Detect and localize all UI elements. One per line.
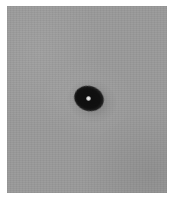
microscopy-image: Grayscale microscopy image of a single d…: [7, 6, 167, 193]
particle-bright-core: [86, 96, 91, 101]
